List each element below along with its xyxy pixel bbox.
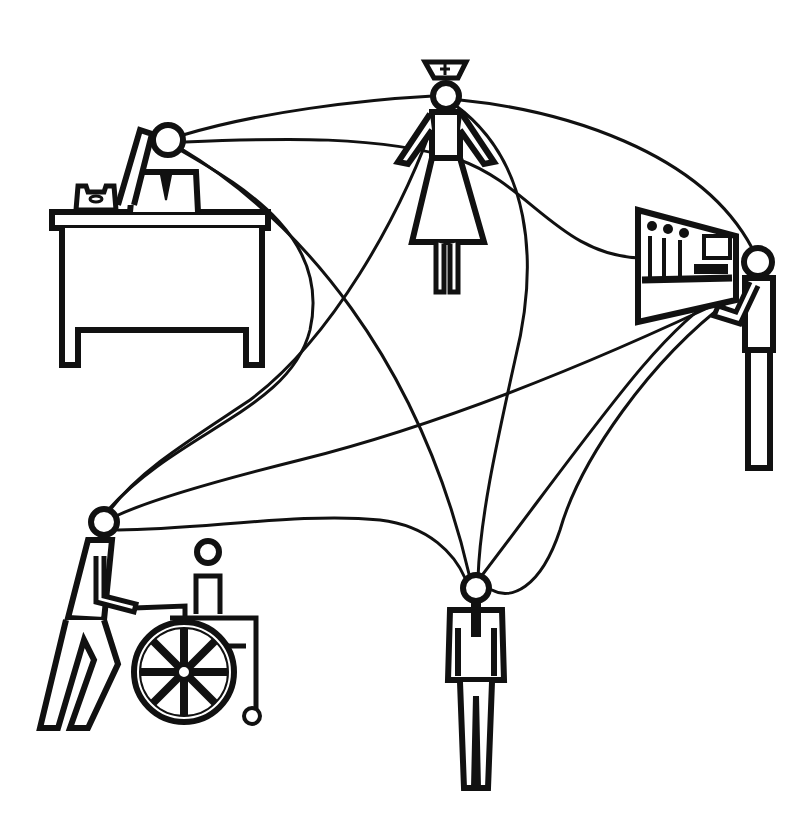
network-illustration bbox=[0, 0, 812, 814]
worker-head bbox=[153, 125, 183, 155]
man-tie bbox=[472, 604, 480, 636]
panel-shelf bbox=[642, 278, 732, 280]
wheel-hub bbox=[177, 665, 191, 679]
man-head bbox=[463, 575, 489, 601]
telephone-dial bbox=[90, 196, 102, 202]
nurse-head bbox=[433, 83, 459, 109]
nurse-bodice bbox=[432, 112, 460, 158]
panel-screen bbox=[704, 236, 730, 258]
desk-top bbox=[52, 212, 268, 228]
wheelchair-caster bbox=[244, 708, 260, 724]
technician-leg bbox=[748, 350, 770, 468]
technician-head bbox=[744, 248, 772, 276]
caregiver-head bbox=[91, 509, 117, 535]
patient-torso bbox=[196, 576, 220, 614]
man-legs bbox=[460, 682, 492, 788]
patient-head bbox=[197, 541, 219, 563]
